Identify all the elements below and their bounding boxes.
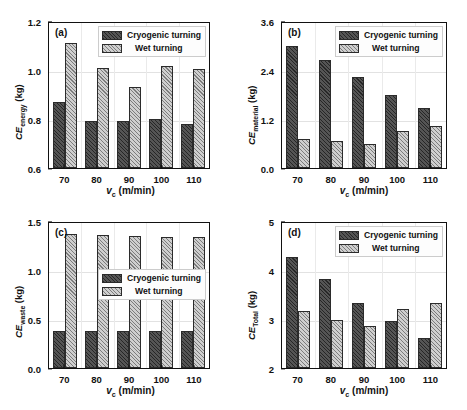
plot-area-a: Cryogenic turning Wet turning: [48, 22, 210, 169]
x-tick-label: 90: [359, 174, 370, 185]
x-tick-mark: [430, 365, 431, 369]
bar-cryogenic: [418, 108, 430, 168]
legend-label-cryogenic: Cryogenic turning: [364, 30, 438, 40]
bar-cryogenic: [85, 331, 97, 368]
legend-label-cryogenic: Cryogenic turning: [127, 30, 201, 40]
bar-cryogenic: [181, 331, 193, 368]
bar-cryogenic: [418, 338, 430, 368]
y-axis-label-a: CEenergy (kg): [13, 84, 26, 140]
legend-label-cryogenic: Cryogenic turning: [127, 273, 201, 283]
x-tick-label: 110: [423, 174, 438, 185]
bar-wet: [65, 234, 77, 368]
y-tick-label: 0.6: [0, 164, 41, 175]
legend-row-cryogenic: Cryogenic turning: [339, 30, 438, 40]
bar-wet: [129, 87, 141, 168]
x-tick-mark: [363, 365, 364, 369]
x-axis-label-d: vc (m/min): [247, 385, 467, 399]
bar-cryogenic: [149, 119, 161, 168]
bar-cryogenic: [53, 331, 65, 368]
x-tick-mark: [193, 165, 194, 169]
bar-wet: [430, 303, 442, 368]
y-tick-label: 1.2: [0, 17, 41, 28]
legend-swatch-wet-icon: [102, 44, 122, 53]
x-tick-mark: [161, 165, 162, 169]
legend-label-cryogenic: Cryogenic turning: [364, 230, 438, 240]
legend-a: Cryogenic turning Wet turning: [98, 26, 206, 57]
bar-wet: [298, 139, 310, 168]
legend-row-wet: Wet turning: [102, 286, 201, 296]
x-tick-mark: [128, 165, 129, 169]
x-tick-label: 100: [153, 374, 169, 385]
y-axis-label-c: CEwaste (kg): [13, 286, 26, 338]
x-tick-mark: [128, 365, 129, 369]
bar-wet: [161, 66, 173, 168]
plot-area-d: Cryogenic turning Wet turning: [281, 222, 447, 369]
x-tick-label: 100: [389, 374, 405, 385]
bar-cryogenic: [385, 95, 397, 169]
legend-d: Cryogenic turning Wet turning: [335, 226, 443, 257]
bar-group: [53, 23, 77, 168]
bar-wet: [298, 311, 310, 368]
y-tick-label: 0.5: [0, 315, 41, 326]
x-tick-label: 90: [359, 374, 370, 385]
panel-d: CETotal (kg) 2345 Cryogenic turning Wet …: [233, 205, 467, 410]
y-tick-label: 0.0: [233, 164, 274, 175]
legend-row-wet: Wet turning: [102, 43, 201, 53]
bar-wet: [331, 141, 343, 168]
bar-cryogenic: [286, 257, 298, 368]
x-tick-label: 70: [59, 374, 70, 385]
y-tick-label: 0.8: [0, 115, 41, 126]
bar-wet: [397, 131, 409, 168]
bar-group: [53, 223, 77, 368]
bar-wet: [430, 126, 442, 168]
y-tick-label: 3.6: [233, 17, 274, 28]
x-tick-label: 110: [186, 174, 201, 185]
x-axis-label-a: vc (m/min): [14, 185, 247, 199]
x-tick-mark: [64, 165, 65, 169]
bar-wet: [193, 237, 205, 368]
y-tick-label: 2: [233, 364, 274, 375]
legend-row-wet: Wet turning: [339, 43, 438, 53]
figure-carbon-emission-panels: CEenergy (kg) 0.60.81.01.2 Cryogenic tur…: [0, 0, 467, 410]
x-tick-label: 70: [59, 174, 70, 185]
bar-wet: [364, 326, 376, 368]
bar-cryogenic: [53, 102, 65, 168]
plot-area-b: Cryogenic turning Wet turning: [281, 22, 447, 169]
bar-cryogenic: [181, 124, 193, 168]
panel-c: CEwaste (kg) 0.00.51.01.5 Cryogenic turn…: [0, 205, 233, 410]
legend-label-wet: Wet turning: [135, 286, 183, 296]
bar-wet: [397, 309, 409, 368]
bar-wet: [129, 236, 141, 368]
y-tick-label: 3: [233, 315, 274, 326]
x-tick-mark: [330, 165, 331, 169]
bar-cryogenic: [319, 60, 331, 168]
legend-label-wet: Wet turning: [372, 243, 420, 253]
bar-wet: [331, 320, 343, 369]
bar-wet: [65, 43, 77, 168]
legend-c: Cryogenic turning Wet turning: [98, 269, 206, 300]
x-tick-mark: [397, 165, 398, 169]
bar-wet: [97, 68, 109, 168]
bar-cryogenic: [117, 121, 129, 168]
legend-swatch-cryogenic-icon: [102, 31, 122, 40]
legend-swatch-cryogenic-icon: [339, 231, 359, 240]
bar-cryogenic: [352, 77, 364, 168]
legend-swatch-cryogenic-icon: [102, 274, 122, 283]
legend-row-cryogenic: Cryogenic turning: [339, 230, 438, 240]
x-tick-mark: [363, 165, 364, 169]
x-tick-mark: [297, 365, 298, 369]
y-tick-label: 1.0: [0, 266, 41, 277]
panel-tag-c: (c): [55, 227, 67, 238]
x-tick-mark: [430, 165, 431, 169]
x-axis-label-b: vc (m/min): [247, 185, 467, 199]
bar-cryogenic: [352, 303, 364, 368]
bar-wet: [364, 144, 376, 169]
y-tick-label: 1.5: [0, 217, 41, 228]
x-tick-label: 90: [124, 374, 135, 385]
bar-cryogenic: [286, 46, 298, 169]
legend-b: Cryogenic turning Wet turning: [335, 26, 443, 57]
x-axis-label-c: vc (m/min): [14, 385, 247, 399]
x-tick-label: 90: [124, 174, 135, 185]
legend-swatch-cryogenic-icon: [339, 31, 359, 40]
bar-group: [286, 23, 310, 168]
